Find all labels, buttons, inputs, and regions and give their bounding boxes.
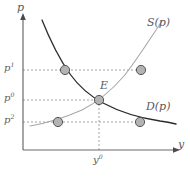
marker-demand-at-price-high (60, 65, 69, 74)
data-point-markers (53, 65, 145, 126)
supply-demand-diagram: p y p1 p0 p2 y0 S(p) D(p) E (0, 0, 190, 177)
tick-label-price-eq-superscript: 0 (10, 91, 14, 98)
tick-label-price-high-superscript: 1 (10, 61, 14, 68)
tick-label-price-high: p1 (4, 63, 14, 73)
equilibrium-point-label: E (100, 80, 108, 91)
y-axis-label: p (17, 2, 24, 13)
tick-label-quantity-eq: y0 (93, 155, 103, 165)
tick-label-price-low-superscript: 2 (10, 113, 14, 120)
y-axis-arrow (20, 13, 26, 20)
marker-supply-at-price-high (136, 65, 145, 74)
tick-label-quantity-eq-superscript: 0 (99, 153, 103, 160)
tick-label-price-eq: p0 (4, 93, 14, 103)
marker-equilibrium (94, 95, 103, 104)
marker-supply-at-price-low (53, 117, 62, 126)
supply-curve-label: S(p) (147, 17, 170, 28)
marker-demand-at-price-low (135, 117, 144, 126)
tick-label-price-low: p2 (4, 115, 14, 125)
demand-curve-label: D(p) (146, 101, 170, 112)
x-axis-label: y (178, 139, 184, 150)
